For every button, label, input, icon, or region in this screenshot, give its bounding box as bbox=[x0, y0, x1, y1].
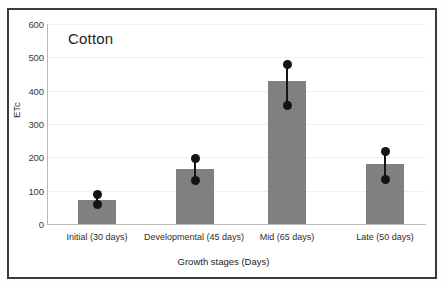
gridline-400 bbox=[48, 91, 425, 92]
error-cap-low-late bbox=[381, 175, 390, 184]
plot-area bbox=[48, 24, 425, 224]
y-axis-line bbox=[47, 24, 48, 225]
gridline-200 bbox=[48, 157, 425, 158]
y-tick-200: 200 bbox=[2, 152, 44, 163]
x-tick-late: Late (50 days) bbox=[330, 232, 440, 242]
y-tick-600: 600 bbox=[2, 19, 44, 30]
error-cap-high-late bbox=[381, 147, 390, 156]
figure-canvas: 600 500 400 300 200 100 0 ETc Initial (3… bbox=[0, 0, 447, 287]
gridline-500 bbox=[48, 57, 425, 58]
y-axis-title: ETc bbox=[11, 102, 22, 118]
gridline-300 bbox=[48, 124, 425, 125]
error-cap-high-mid bbox=[283, 60, 292, 69]
error-bar-mid bbox=[286, 65, 288, 105]
x-axis-line bbox=[47, 224, 426, 225]
x-axis-title: Growth stages (Days) bbox=[0, 256, 447, 267]
error-cap-high-initial bbox=[93, 190, 102, 199]
y-tick-0: 0 bbox=[2, 219, 44, 230]
error-cap-low-mid bbox=[283, 101, 292, 110]
chart-title: Cotton bbox=[68, 30, 113, 47]
error-cap-low-developmental bbox=[191, 176, 200, 185]
y-axis-tick-labels: 600 500 400 300 200 100 0 bbox=[0, 0, 44, 287]
error-cap-high-developmental bbox=[191, 154, 200, 163]
y-tick-400: 400 bbox=[2, 86, 44, 97]
y-tick-500: 500 bbox=[2, 52, 44, 63]
gridline-600 bbox=[48, 24, 425, 25]
y-tick-300: 300 bbox=[2, 119, 44, 130]
error-cap-low-initial bbox=[93, 200, 102, 209]
y-tick-100: 100 bbox=[2, 186, 44, 197]
x-tick-mid: Mid (65 days) bbox=[232, 232, 342, 242]
